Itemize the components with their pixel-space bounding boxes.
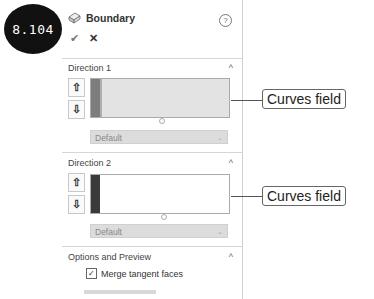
direction1-collapse-chevron-icon[interactable]: ^ xyxy=(229,63,233,73)
field-color-bar xyxy=(91,79,100,117)
figure-number-badge: 8.104 xyxy=(4,4,62,54)
merge-tangent-faces-option[interactable]: ✓ Merge tangent faces xyxy=(86,268,183,279)
merge-tangent-faces-checkbox[interactable]: ✓ xyxy=(86,268,97,279)
curves-field-callout-2: Curves field xyxy=(262,186,346,206)
ok-check-icon[interactable]: ✔ xyxy=(70,32,79,45)
chevron-down-icon: ⌄ xyxy=(217,131,223,145)
help-icon[interactable]: ? xyxy=(219,14,232,27)
direction1-curves-field[interactable] xyxy=(90,78,230,118)
cancel-close-icon[interactable]: ✕ xyxy=(89,32,98,45)
curves-field-callout-1: Curves field xyxy=(262,89,346,109)
direction2-dropdown-value: Default xyxy=(95,227,122,237)
direction2-move-down-button[interactable]: ⇩ xyxy=(68,195,85,214)
divider xyxy=(62,58,242,59)
chevron-down-icon: ⌄ xyxy=(217,225,223,239)
direction2-title[interactable]: Direction 2 xyxy=(68,158,111,168)
boundary-property-manager: Boundary ? ✔ ✕ Direction 1 ^ ⇧ ⇩ Default… xyxy=(62,0,243,299)
preview-slider[interactable] xyxy=(84,290,156,294)
direction1-title[interactable]: Direction 1 xyxy=(68,63,111,73)
direction2-tangency-dropdown[interactable]: Default ⌄ xyxy=(90,224,228,238)
merge-tangent-faces-label: Merge tangent faces xyxy=(101,269,183,279)
callout-leader-line xyxy=(231,100,262,101)
options-preview-title[interactable]: Options and Preview xyxy=(68,252,151,262)
direction2-collapse-chevron-icon[interactable]: ^ xyxy=(229,158,233,168)
direction1-move-down-button[interactable]: ⇩ xyxy=(68,100,85,119)
direction2-move-up-button[interactable]: ⇧ xyxy=(68,173,85,192)
panel-title: Boundary xyxy=(86,12,135,24)
divider xyxy=(62,246,242,247)
field-color-bar-edge xyxy=(100,79,102,117)
panel-header: Boundary ? ✔ ✕ xyxy=(68,12,236,52)
direction2-curves-field[interactable] xyxy=(90,174,230,214)
direction1-dropdown-value: Default xyxy=(95,133,122,143)
field-resize-handle-icon[interactable] xyxy=(159,118,165,124)
field-color-bar xyxy=(91,175,100,213)
callout-leader-line xyxy=(231,196,262,197)
direction1-move-up-button[interactable]: ⇧ xyxy=(68,78,85,97)
divider xyxy=(62,152,242,153)
field-resize-handle-icon[interactable] xyxy=(161,214,167,220)
direction1-tangency-dropdown[interactable]: Default ⌄ xyxy=(90,130,228,144)
boundary-feature-icon xyxy=(68,12,81,24)
options-collapse-chevron-icon[interactable]: ^ xyxy=(229,252,233,262)
